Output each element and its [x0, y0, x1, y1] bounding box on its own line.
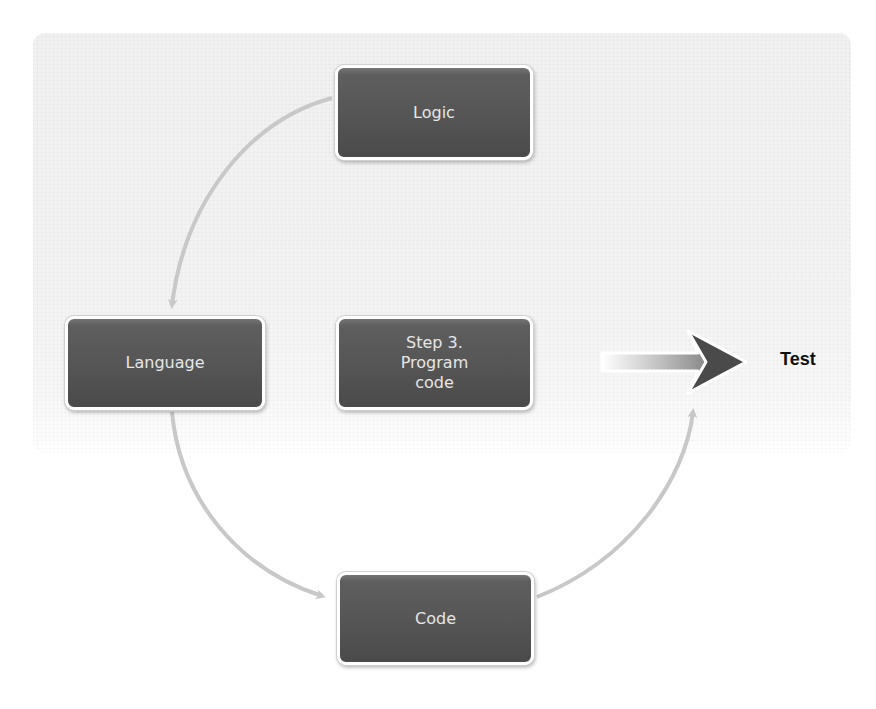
connector-logic-to-language: [172, 98, 332, 305]
node-code: Code: [337, 572, 534, 665]
node-logic-label: Logic: [413, 103, 455, 123]
right-arrow-icon: [600, 327, 750, 397]
node-language-label: Language: [126, 353, 205, 373]
connector-code-to-logic: [537, 412, 693, 597]
connector-language-to-code: [172, 412, 322, 596]
node-code-label: Code: [415, 609, 456, 629]
output-label-test: Test: [780, 349, 816, 370]
node-step-3-program-code: Step 3. Program code: [336, 316, 533, 410]
node-language: Language: [65, 316, 265, 410]
node-logic: Logic: [335, 65, 533, 160]
node-step-3-label: Step 3. Program code: [401, 333, 469, 393]
